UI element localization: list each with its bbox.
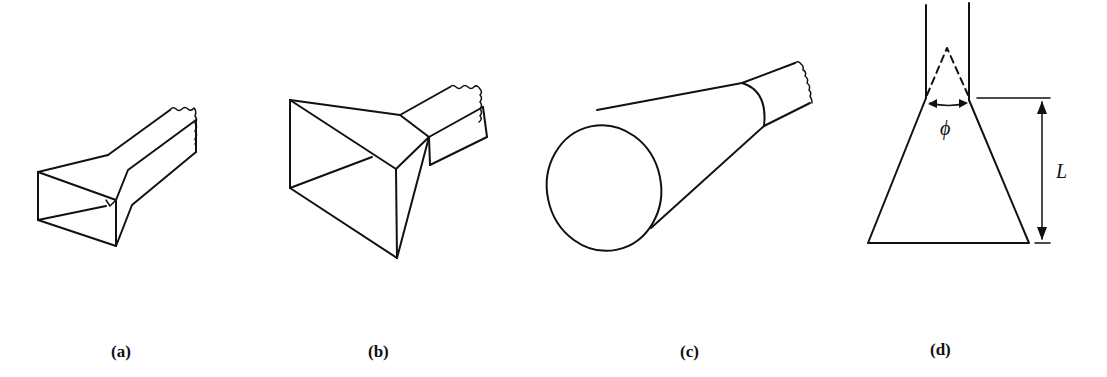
panel-label-a: (a) bbox=[111, 342, 131, 362]
conical-horn-diagram-c bbox=[535, 62, 812, 262]
sectoral-horn-diagram-a bbox=[38, 108, 197, 247]
pyramidal-horn-diagram-b bbox=[290, 86, 487, 259]
flare-angle-symbol: ϕ bbox=[940, 117, 950, 140]
length-symbol: L bbox=[1056, 160, 1067, 183]
horn-cross-section-diagram-d bbox=[868, 3, 1050, 243]
panel-label-d: (d) bbox=[930, 340, 951, 360]
horn-antenna-figure bbox=[0, 0, 1107, 377]
panel-label-b: (b) bbox=[368, 342, 389, 362]
panel-label-c: (c) bbox=[680, 342, 699, 362]
